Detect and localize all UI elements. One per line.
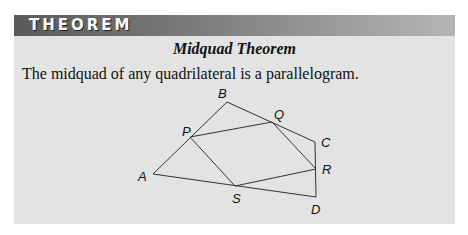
vertex-label-c: C	[321, 135, 331, 150]
midquad-pqrs	[190, 122, 316, 186]
midquad-figure: A B C D P Q R S	[0, 0, 468, 235]
vertex-label-a: A	[137, 169, 147, 184]
vertex-label-d: D	[311, 202, 320, 217]
vertex-label-b: B	[218, 86, 227, 101]
midpoint-label-p: P	[182, 124, 191, 139]
quadrilateral-abcd	[153, 102, 316, 197]
midpoint-label-q: Q	[274, 107, 284, 122]
midpoint-label-s: S	[232, 191, 241, 206]
midpoint-label-r: R	[322, 162, 331, 177]
